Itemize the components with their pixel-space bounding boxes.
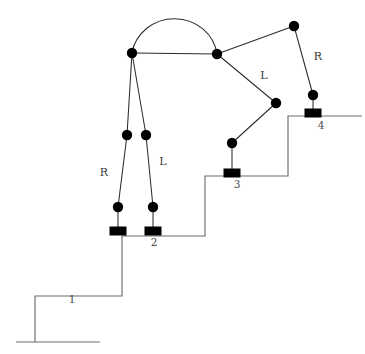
label-arm-left: L (260, 69, 268, 82)
ankle-left-joint (148, 202, 158, 212)
forearm-left (232, 103, 276, 143)
label-step-1: 1 (69, 293, 76, 305)
support-group (110, 109, 322, 236)
hand-left-joint (227, 138, 237, 148)
label-step-3: 3 (234, 178, 241, 190)
stair-profile (35, 116, 362, 342)
diagram-canvas: R L L R 1 2 3 4 (0, 0, 365, 354)
thigh-right (127, 53, 132, 135)
label-step-4: 4 (318, 119, 325, 131)
joint-group (113, 21, 318, 212)
ankle-right-joint (113, 202, 123, 212)
knee-right-joint (122, 130, 132, 140)
biomechanical-stair-diagram: R L L R 1 2 3 4 (0, 0, 365, 354)
support-hand-left (224, 169, 241, 178)
shoulder-right-joint (289, 21, 299, 31)
elbow-right-joint (308, 90, 318, 100)
label-leg-right: R (100, 166, 109, 179)
label-leg-left: L (159, 155, 167, 168)
shank-right (118, 135, 127, 207)
label-arm-right: R (314, 50, 323, 63)
shank-left (146, 135, 153, 207)
label-step-2: 2 (151, 236, 158, 248)
support-foot-right (110, 227, 127, 236)
support-foot-left (145, 227, 162, 236)
label-group: R L L R 1 2 3 4 (69, 50, 325, 305)
forearm-right (294, 26, 313, 95)
elbow-left-joint (271, 98, 281, 108)
hip-left-joint (127, 48, 137, 58)
upperarm-right (217, 26, 294, 54)
thigh-left (132, 53, 146, 135)
torso-beam (132, 53, 217, 54)
support-hand-right (305, 109, 322, 118)
head-arc (132, 19, 217, 54)
knee-left-joint (141, 130, 151, 140)
hip-right-joint (212, 49, 222, 59)
